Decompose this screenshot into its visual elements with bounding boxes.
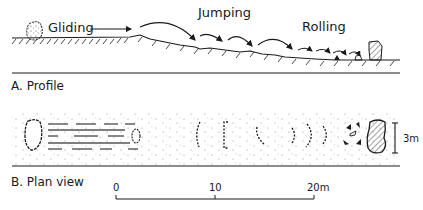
plan-panel [12,112,400,166]
label-3m: 3m [403,134,419,144]
fragment-icon [355,55,362,60]
caption-profile: A. Profile [11,80,64,92]
plan-boulder-start-icon [25,120,42,150]
jumping-arcs [140,23,292,49]
caption-plan-view: B. Plan view [11,176,84,188]
scale-tick-20: 20m [307,183,329,193]
plan-glide-mark-icon [132,129,140,143]
ground-surface [12,35,400,60]
label-rolling: Rolling [302,20,346,33]
rolling-arcs [298,48,360,56]
distance-scale-bar [116,195,314,199]
label-gliding: Gliding [48,21,94,34]
fragment-icon [334,55,340,60]
plan-boulder-end-icon [367,120,385,153]
label-jumping: Jumping [198,6,251,19]
boulder-end-icon [369,41,382,60]
scale-tick-0: 0 [113,183,119,193]
scale-tick-10: 10 [209,183,222,193]
boulder-start-icon [27,22,43,40]
